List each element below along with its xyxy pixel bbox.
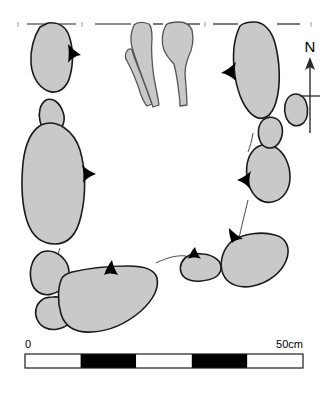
stone-nw-upper [31, 23, 73, 92]
stone-w-large [22, 123, 85, 244]
plan-drawing-canvas: N 0 50cm [0, 0, 332, 393]
scale-segment-1 [25, 354, 81, 368]
archaeological-plan-figure: N 0 50cm [0, 0, 332, 393]
scale-segment-4 [192, 354, 248, 368]
north-label: N [305, 38, 316, 55]
scale-segment-3 [136, 354, 192, 368]
scale-start-label: 0 [25, 338, 31, 350]
scale-bar-segments [25, 354, 303, 368]
scale-segment-2 [81, 354, 137, 368]
scale-segment-5 [247, 354, 303, 368]
stone-s-small [180, 254, 221, 282]
stone-e-tiny [285, 94, 308, 126]
scale-end-label: 50cm [276, 338, 303, 350]
stone-e-small [258, 117, 282, 148]
